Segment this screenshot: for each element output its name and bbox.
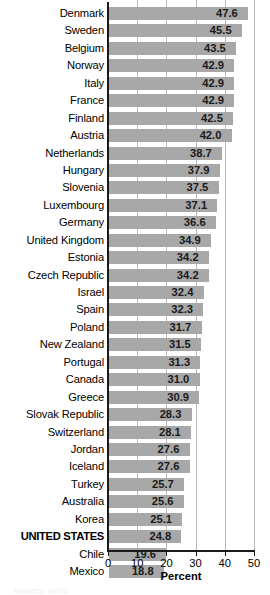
category-label: Austria (70, 129, 104, 142)
bar-row: United Kingdom34.9 (0, 234, 270, 251)
bar-row: Turkey25.7 (0, 478, 270, 495)
bar-value-label: 25.6 (152, 495, 174, 508)
category-label: Switzerland (48, 426, 104, 439)
category-label: Slovak Republic (26, 408, 104, 421)
bar-row: Portugal31.3 (0, 356, 270, 373)
category-label: Turkey (71, 478, 104, 491)
plot-area: Denmark47.6Sweden45.5Belgium43.5Norway42… (0, 0, 270, 552)
category-label: Israel (78, 286, 104, 299)
category-label: Australia (62, 495, 104, 508)
category-label: Sweden (64, 24, 104, 37)
bar-value-label: 47.6 (216, 7, 238, 20)
bar-row: Czech Republic34.2 (0, 269, 270, 286)
bar-value-label: 28.3 (160, 408, 182, 421)
bar-row: Estonia34.2 (0, 251, 270, 268)
category-label: Luxembourg (43, 199, 104, 212)
bar-value-label: 34.2 (177, 251, 199, 264)
bar-row: UNITED STATES24.8 (0, 530, 270, 547)
bar-value-label: 30.9 (167, 391, 189, 404)
bar-value-label: 25.1 (150, 513, 172, 526)
bar-row: Korea25.1 (0, 513, 270, 530)
category-label: Norway (67, 59, 104, 72)
bar-value-label: 42.5 (201, 112, 223, 125)
bar-value-label: 42.9 (202, 77, 224, 90)
category-label: Italy (84, 77, 104, 90)
bar-value-label: 37.1 (185, 199, 207, 212)
bar-value-label: 31.5 (169, 338, 191, 351)
bar-row: Hungary37.9 (0, 164, 270, 181)
bar-value-label: 45.5 (210, 24, 232, 37)
bar-value-label: 27.6 (158, 443, 180, 456)
bar-rows: Denmark47.6Sweden45.5Belgium43.5Norway42… (0, 7, 270, 582)
tick-mark-40 (225, 552, 226, 556)
bar-value-label: 25.7 (152, 478, 174, 491)
category-label: Greece (68, 391, 104, 404)
category-label: Slovenia (62, 181, 104, 194)
category-label: Poland (70, 321, 104, 334)
bar-value-label: 43.5 (204, 42, 226, 55)
bar-value-label: 31.3 (168, 356, 190, 369)
bar-row: Israel32.4 (0, 286, 270, 303)
tick-mark-0 (108, 552, 109, 556)
bar-value-label: 31.0 (168, 373, 190, 386)
bar-value-label: 32.3 (171, 303, 193, 316)
bar-row: Australia25.6 (0, 495, 270, 512)
category-label: Iceland (69, 460, 104, 473)
category-label: Czech Republic (28, 269, 104, 282)
bar-row: Iceland27.6 (0, 460, 270, 477)
category-label: Finland (68, 112, 104, 125)
category-label: United Kingdom (26, 234, 104, 247)
bar-value-label: 36.6 (184, 216, 206, 229)
bar-row: Slovak Republic28.3 (0, 408, 270, 425)
category-label: Estonia (68, 251, 104, 264)
category-label: France (70, 94, 104, 107)
tick-label-0: 0 (105, 557, 111, 569)
bar-row: Netherlands38.7 (0, 147, 270, 164)
tick-label-10: 10 (131, 557, 143, 569)
bar-row: Poland31.7 (0, 321, 270, 338)
bar-row: Austria42.0 (0, 129, 270, 146)
category-label: UNITED STATES (21, 530, 104, 543)
bar-value-label: 42.9 (202, 94, 224, 107)
category-label: Korea (75, 513, 104, 526)
tick-label-40: 40 (219, 557, 231, 569)
x-axis-ticks: 01020304050 (0, 552, 270, 572)
bar-row: Luxembourg37.1 (0, 199, 270, 216)
bar-value-label: 28.1 (159, 426, 181, 439)
bar-row: Italy42.9 (0, 77, 270, 94)
bar-value-label: 42.9 (202, 59, 224, 72)
category-label: Hungary (63, 164, 104, 177)
tick-label-50: 50 (248, 557, 260, 569)
category-label: Denmark (60, 7, 104, 20)
bar-value-label: 34.9 (179, 234, 201, 247)
bar-row: New Zealand31.5 (0, 338, 270, 355)
bar-value-label: 42.0 (200, 129, 222, 142)
category-label: Spain (76, 303, 104, 316)
bar-row: Slovenia37.5 (0, 181, 270, 198)
category-label: Belgium (65, 42, 104, 55)
bar-row: Belgium43.5 (0, 42, 270, 59)
bar-row: Spain32.3 (0, 303, 270, 320)
bar-value-label: 32.4 (172, 286, 194, 299)
bar-row: Switzerland28.1 (0, 426, 270, 443)
category-label: Jordan (71, 443, 104, 456)
bar-row: Norway42.9 (0, 59, 270, 76)
category-label: New Zealand (40, 338, 104, 351)
x-axis-title: Percent (107, 570, 255, 582)
bar-value-label: 37.5 (187, 181, 209, 194)
bar-row: Denmark47.6 (0, 7, 270, 24)
bar-value-label: 31.7 (170, 321, 192, 334)
bar-value-label: 34.2 (177, 269, 199, 282)
bar-chart: Denmark47.6Sweden45.5Belgium43.5Norway42… (0, 0, 270, 595)
category-label: Germany (59, 216, 104, 229)
bar-row: Sweden45.5 (0, 24, 270, 41)
tick-mark-20 (166, 552, 167, 556)
tick-mark-10 (137, 552, 138, 556)
bar-row: Canada31.0 (0, 373, 270, 390)
tick-label-30: 30 (189, 557, 201, 569)
source-note: SOURCE: OECD (14, 588, 68, 595)
bar-row: France42.9 (0, 94, 270, 111)
bar-value-label: 24.8 (149, 530, 171, 543)
category-label: Portugal (64, 356, 104, 369)
category-label: Canada (66, 373, 104, 386)
